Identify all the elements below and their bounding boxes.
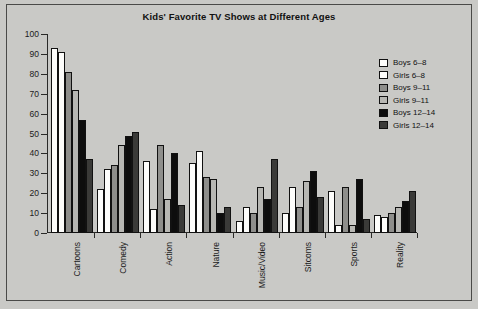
legend-label: Girls 9–11: [393, 96, 429, 105]
y-tick-label: 90: [30, 49, 39, 59]
bar[interactable]: [164, 199, 171, 233]
bar[interactable]: [236, 221, 243, 233]
x-tick-mark: [279, 233, 280, 238]
y-tick-label: 100: [25, 29, 39, 39]
bar[interactable]: [224, 207, 231, 233]
bar[interactable]: [363, 219, 370, 233]
y-tick-label: 50: [30, 129, 39, 139]
y-tick-mark: [41, 74, 47, 75]
bar[interactable]: [381, 217, 388, 233]
legend-label: Girls 6–8: [393, 71, 425, 80]
y-tick-mark: [41, 233, 47, 234]
bar[interactable]: [310, 171, 317, 233]
legend-item[interactable]: Girls 12–14: [379, 120, 435, 131]
legend-item[interactable]: Girls 6–8: [379, 70, 435, 81]
bar-group: Nature: [186, 34, 232, 233]
x-axis-label: Cartoons: [72, 242, 82, 277]
y-tick-label: 0: [34, 228, 39, 238]
legend-swatch: [379, 71, 388, 79]
y-tick-label: 10: [30, 208, 39, 218]
legend-item[interactable]: Boys 12–14: [379, 107, 435, 118]
bar[interactable]: [58, 52, 65, 233]
legend-label: Boys 6–8: [393, 58, 426, 67]
bar[interactable]: [203, 177, 210, 233]
bar[interactable]: [395, 207, 402, 233]
y-tick-mark: [41, 94, 47, 95]
bar[interactable]: [257, 187, 264, 233]
legend-label: Boys 9–11: [393, 83, 430, 92]
bar[interactable]: [132, 132, 139, 233]
y-tick-label: 70: [30, 89, 39, 99]
x-axis-label: Music/Video: [257, 242, 267, 288]
legend-label: Boys 12–14: [393, 108, 435, 117]
chart-title: Kids' Favorite TV Shows at Different Age…: [7, 11, 471, 22]
bar[interactable]: [264, 199, 271, 233]
bar[interactable]: [171, 153, 178, 233]
plot-area: 0102030405060708090100 CartoonsComedyAct…: [47, 34, 417, 233]
bar[interactable]: [196, 151, 203, 233]
bar[interactable]: [86, 159, 93, 233]
bar[interactable]: [374, 215, 381, 233]
bar[interactable]: [243, 207, 250, 233]
y-tick-label: 60: [30, 109, 39, 119]
bar[interactable]: [282, 213, 289, 233]
x-tick-mark: [417, 233, 418, 238]
bar-group: Sitcoms: [279, 34, 325, 233]
bar[interactable]: [189, 163, 196, 233]
bar[interactable]: [65, 72, 72, 233]
bar[interactable]: [271, 159, 278, 233]
bar[interactable]: [296, 207, 303, 233]
bar[interactable]: [349, 225, 356, 233]
y-tick-label: 30: [30, 168, 39, 178]
y-tick-mark: [41, 173, 47, 174]
legend-item[interactable]: Girls 9–11: [379, 95, 435, 106]
legend-swatch: [379, 121, 388, 129]
bar-group: Cartoons: [48, 34, 94, 233]
bar-group: Sports: [325, 34, 371, 233]
bar[interactable]: [111, 165, 118, 233]
chart-legend: Boys 6–8Girls 6–8Boys 9–11Girls 9–11Boys…: [379, 57, 435, 131]
y-tick-mark: [41, 54, 47, 55]
bar[interactable]: [342, 187, 349, 233]
x-axis-label: Reality: [395, 242, 405, 268]
legend-swatch: [379, 109, 388, 117]
bar[interactable]: [118, 145, 125, 233]
bar[interactable]: [104, 169, 111, 233]
bar-group: Action: [140, 34, 186, 233]
bar[interactable]: [97, 189, 104, 233]
x-tick-mark: [140, 233, 141, 238]
x-tick-mark: [94, 233, 95, 238]
bar[interactable]: [250, 213, 257, 233]
y-tick-mark: [41, 114, 47, 115]
bar[interactable]: [217, 213, 224, 233]
y-tick-mark: [41, 213, 47, 214]
bar[interactable]: [210, 179, 217, 233]
bar[interactable]: [303, 181, 310, 233]
bar[interactable]: [289, 187, 296, 233]
bar[interactable]: [51, 48, 58, 233]
bar-groups: CartoonsComedyActionNatureMusic/VideoSit…: [48, 34, 417, 233]
bar[interactable]: [150, 209, 157, 233]
y-tick-mark: [41, 34, 47, 35]
bar[interactable]: [72, 90, 79, 233]
legend-item[interactable]: Boys 9–11: [379, 82, 435, 93]
bar[interactable]: [157, 145, 164, 233]
bar[interactable]: [356, 179, 363, 233]
bar[interactable]: [335, 225, 342, 233]
legend-item[interactable]: Boys 6–8: [379, 57, 435, 68]
bar[interactable]: [317, 197, 324, 233]
bar[interactable]: [125, 136, 132, 234]
bar[interactable]: [409, 191, 416, 233]
x-axis-label: Comedy: [118, 242, 128, 274]
bar[interactable]: [79, 120, 86, 233]
bar[interactable]: [143, 161, 150, 233]
bar[interactable]: [328, 191, 335, 233]
bar[interactable]: [402, 201, 409, 233]
x-axis-label: Action: [164, 242, 174, 266]
bar[interactable]: [178, 205, 185, 233]
bar[interactable]: [388, 213, 395, 233]
chart-figure: Kids' Favorite TV Shows at Different Age…: [6, 4, 472, 301]
x-axis-label: Sports: [349, 242, 359, 267]
y-tick-label: 40: [30, 148, 39, 158]
y-tick-label: 20: [30, 188, 39, 198]
